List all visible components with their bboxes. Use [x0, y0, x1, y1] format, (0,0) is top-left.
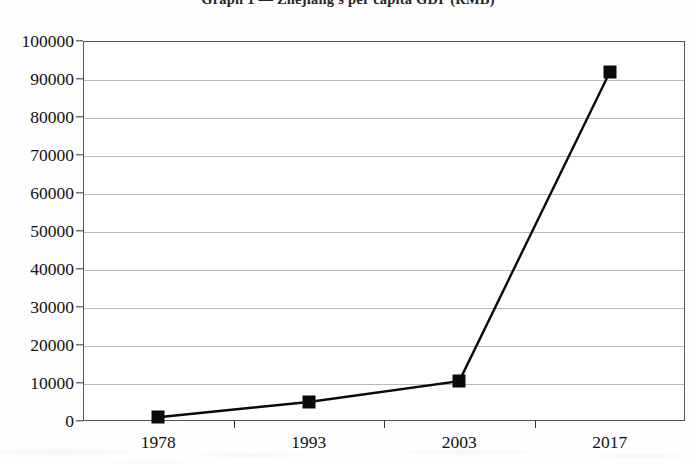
- x-axis-tick-mark: [234, 421, 235, 428]
- x-axis-tick-mark: [384, 421, 385, 428]
- x-axis-labels: 1978199320032017: [83, 432, 685, 458]
- chart-title-container: Graph 1 — Zhejiang's per capita GDP (RMB…: [0, 0, 696, 11]
- x-axis-tick-label: 1993: [291, 432, 326, 453]
- y-axis-tick-mark: [76, 40, 83, 41]
- y-axis-tick-mark: [76, 230, 83, 231]
- y-axis-tick-mark: [76, 192, 83, 193]
- y-axis-tick-mark: [76, 268, 83, 269]
- x-axis-tick-label: 2017: [592, 432, 627, 453]
- x-axis-tick-mark: [535, 421, 536, 428]
- y-axis-ticks: [0, 41, 90, 421]
- x-axis-tick-label: 1978: [141, 432, 176, 453]
- chart-title: Graph 1 — Zhejiang's per capita GDP (RMB…: [0, 0, 696, 8]
- series-line: [83, 41, 685, 421]
- y-axis-tick-mark: [76, 306, 83, 307]
- x-axis-tick-label: 2003: [442, 432, 477, 453]
- y-axis-tick-mark: [76, 154, 83, 155]
- y-axis-tick-mark: [76, 344, 83, 345]
- x-axis-ticks: [83, 421, 685, 431]
- y-axis-tick-mark: [76, 420, 83, 421]
- chart-screenshot: Graph 1 — Zhejiang's per capita GDP (RMB…: [0, 0, 696, 464]
- series-polyline: [158, 72, 610, 417]
- y-axis-tick-mark: [76, 382, 83, 383]
- y-axis-tick-mark: [76, 116, 83, 117]
- y-axis-tick-mark: [76, 78, 83, 79]
